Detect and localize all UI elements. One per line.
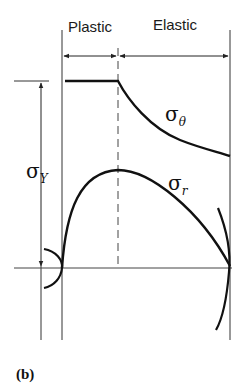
outer-boundary-arc	[216, 208, 229, 330]
yield-stress-label: σY	[26, 159, 49, 186]
radial-stress-label: σr	[168, 171, 189, 198]
stress-distribution-diagram: Plastic Elastic σY σθ σr (b)	[0, 0, 251, 389]
plastic-region-label: Plastic	[68, 18, 113, 35]
hoop-stress-label: σθ	[165, 102, 187, 129]
hoop-stress-curve	[65, 81, 230, 156]
figure-caption: (b)	[16, 366, 34, 383]
radial-stress-curve	[62, 170, 230, 268]
elastic-region-label: Elastic	[153, 16, 198, 33]
